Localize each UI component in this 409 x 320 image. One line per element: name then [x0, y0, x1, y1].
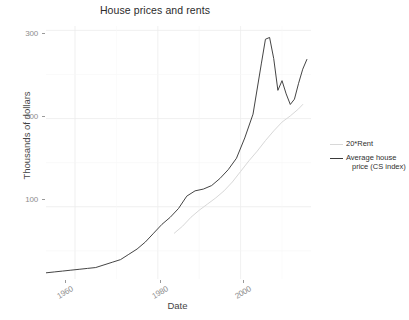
legend-item-rent[interactable]: 20*Rent	[330, 139, 409, 150]
legend-label-house-price: Average house price (CS index)	[346, 153, 409, 171]
y-tick-mark-300	[42, 33, 45, 34]
plot-svg	[46, 26, 311, 279]
y-axis-label: Thousands of dollars	[21, 66, 32, 206]
chart-title: House prices and rents	[0, 4, 310, 16]
y-tick-label-200: 200	[8, 112, 38, 121]
y-tick-mark-100	[42, 199, 45, 200]
x-tick-mark-1980	[160, 280, 161, 283]
y-tick-label-100: 100	[8, 195, 38, 204]
legend-swatch-house-price	[330, 153, 343, 164]
x-axis-label: Date	[45, 300, 310, 311]
y-tick-label-300: 300	[8, 29, 38, 38]
plot-area	[46, 26, 311, 279]
legend-item-house-price[interactable]: Average house price (CS index)	[330, 153, 409, 171]
gridlines	[46, 26, 311, 279]
chart-figure: House prices and rents Thousands of doll…	[0, 0, 409, 320]
legend-swatch-rent	[330, 139, 343, 150]
x-tick-mark-2000	[243, 280, 244, 283]
series-line-rent	[174, 104, 302, 233]
legend: 20*Rent Average house price (CS index)	[330, 139, 409, 174]
y-tick-mark-200	[42, 116, 45, 117]
legend-label-rent: 20*Rent	[346, 139, 373, 148]
data-series-layer	[46, 37, 307, 272]
series-line-house-price	[46, 37, 307, 272]
x-tick-mark-1960	[65, 280, 66, 283]
